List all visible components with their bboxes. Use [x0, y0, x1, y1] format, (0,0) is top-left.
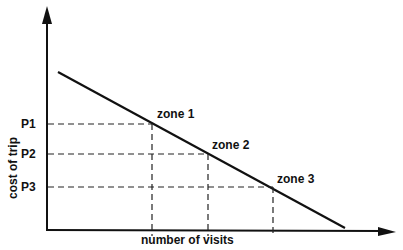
y-axis-label: cost of trip	[7, 137, 19, 199]
p2-label: P2	[21, 148, 36, 160]
zone3-label: zone 3	[277, 173, 314, 185]
x-axis-label: number of visits	[141, 234, 234, 246]
zone1-label: zone 1	[157, 108, 194, 120]
p3-label: P3	[21, 181, 36, 193]
demand-curve-diagram	[0, 0, 403, 250]
y-axis-arrow-icon	[42, 6, 52, 24]
x-axis	[46, 230, 384, 231]
demand-line	[58, 72, 345, 228]
x-axis-arrow-icon	[378, 227, 396, 236]
zone2-label: zone 2	[212, 139, 249, 151]
p1-label: P1	[21, 118, 36, 130]
